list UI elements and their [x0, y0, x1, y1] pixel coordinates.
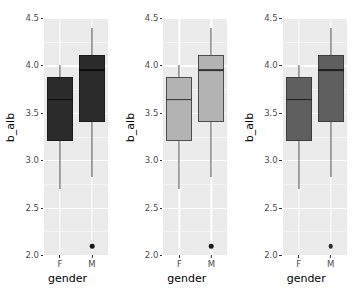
- y-axis-tick-label: 2.5: [145, 203, 159, 213]
- whisker-upper: [91, 28, 92, 55]
- x-axis-tick-label: M: [208, 259, 215, 269]
- plot-area: [44, 18, 108, 255]
- boxplot-panel-3: b_alb4.54.03.53.02.52.0FMgender: [239, 0, 358, 301]
- boxplot-box-M: [77, 18, 107, 255]
- whisker-lower: [59, 141, 60, 188]
- whisker-upper: [59, 65, 60, 76]
- box-iqr-rect: [318, 55, 344, 122]
- y-axis-tick-label: 2.0: [145, 250, 159, 260]
- x-axis-title: gender: [139, 272, 234, 285]
- box-iqr-rect: [286, 77, 312, 141]
- whisker-upper: [298, 65, 299, 76]
- y-axis-tick-label: 4.0: [145, 60, 159, 70]
- y-axis-ticks: 4.54.03.53.02.52.0: [257, 18, 282, 255]
- x-axis-tick-label: M: [88, 259, 95, 269]
- boxplot-box-F: [45, 18, 75, 255]
- plot-area: [283, 18, 347, 255]
- x-axis-ticks: FM: [283, 255, 347, 271]
- whisker-upper: [330, 28, 331, 55]
- y-axis-tick-label: 4.5: [264, 13, 278, 23]
- outlier-point: [209, 244, 214, 249]
- y-axis-tick-label: 4.0: [25, 60, 39, 70]
- median-line: [198, 69, 224, 71]
- box-iqr-rect: [166, 77, 192, 141]
- median-line: [47, 99, 73, 101]
- y-axis-title-text: b_alb: [5, 113, 18, 142]
- whisker-upper: [211, 28, 212, 55]
- y-axis-tick-label: 3.5: [264, 108, 278, 118]
- y-axis-tick-label: 2.5: [264, 203, 278, 213]
- x-axis-tick-label: F: [58, 259, 63, 269]
- median-line: [318, 69, 344, 71]
- boxplot-figure: b_alb4.54.03.53.02.52.0FMgenderb_alb4.54…: [0, 0, 358, 301]
- outlier-point: [328, 244, 333, 249]
- whisker-lower: [298, 141, 299, 188]
- y-axis-tick-label: 3.5: [145, 108, 159, 118]
- boxplot-box-M: [196, 18, 226, 255]
- boxplot-box-F: [164, 18, 194, 255]
- y-axis-title-text: b_alb: [124, 113, 137, 142]
- x-axis-ticks: FM: [44, 255, 108, 271]
- y-axis-ticks: 4.54.03.53.02.52.0: [18, 18, 43, 255]
- whisker-lower: [211, 122, 212, 177]
- x-axis-title: gender: [259, 272, 354, 285]
- y-axis-title-text: b_alb: [243, 113, 256, 142]
- panel-row: b_alb4.54.03.53.02.52.0FMgenderb_alb4.54…: [0, 0, 358, 301]
- y-axis-tick-label: 4.5: [25, 13, 39, 23]
- y-axis-tick-label: 2.0: [25, 250, 39, 260]
- median-line: [79, 69, 105, 71]
- y-axis-tick-label: 3.0: [264, 155, 278, 165]
- boxplot-panel-2: b_alb4.54.03.53.02.52.0FMgender: [119, 0, 238, 301]
- x-axis-tick-label: M: [327, 259, 334, 269]
- y-axis-tick-label: 4.0: [264, 60, 278, 70]
- y-axis-tick-label: 3.0: [145, 155, 159, 165]
- whisker-upper: [179, 65, 180, 76]
- box-iqr-rect: [79, 55, 105, 122]
- y-axis-tick-label: 3.0: [25, 155, 39, 165]
- x-axis-tick-label: F: [177, 259, 182, 269]
- y-axis-tick-label: 2.5: [25, 203, 39, 213]
- whisker-lower: [179, 141, 180, 188]
- y-axis-tick-label: 2.0: [264, 250, 278, 260]
- box-iqr-rect: [198, 55, 224, 122]
- outlier-point: [90, 244, 95, 249]
- y-axis-tick-label: 3.5: [25, 108, 39, 118]
- plot-area: [163, 18, 227, 255]
- boxplot-panel-1: b_alb4.54.03.53.02.52.0FMgender: [0, 0, 119, 301]
- boxplot-box-F: [284, 18, 314, 255]
- whisker-lower: [330, 122, 331, 177]
- x-axis-ticks: FM: [163, 255, 227, 271]
- boxplot-box-M: [316, 18, 346, 255]
- median-line: [166, 99, 192, 101]
- median-line: [286, 99, 312, 101]
- whisker-lower: [91, 122, 92, 177]
- x-axis-title: gender: [20, 272, 115, 285]
- y-axis-tick-label: 4.5: [145, 13, 159, 23]
- box-iqr-rect: [47, 77, 73, 141]
- x-axis-tick-label: F: [296, 259, 301, 269]
- y-axis-ticks: 4.54.03.53.02.52.0: [137, 18, 162, 255]
